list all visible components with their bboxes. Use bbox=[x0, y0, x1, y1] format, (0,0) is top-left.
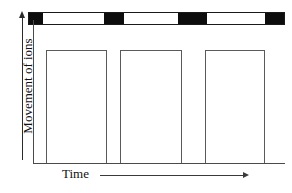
pulse-3 bbox=[205, 50, 265, 163]
stimulus-segment-3 bbox=[178, 13, 207, 24]
x-axis-arrow-icon bbox=[100, 175, 244, 176]
pulse-2 bbox=[120, 50, 182, 163]
pulse-1 bbox=[46, 50, 107, 163]
stimulus-segment-2 bbox=[104, 13, 124, 24]
x-axis-label: Time bbox=[62, 166, 89, 182]
ion-movement-diagram: Movement of ions Time bbox=[0, 0, 292, 193]
stimulus-segment-4 bbox=[265, 13, 284, 24]
y-axis-line bbox=[33, 20, 34, 164]
x-axis-line bbox=[33, 163, 285, 164]
stimulus-bar bbox=[28, 12, 285, 25]
